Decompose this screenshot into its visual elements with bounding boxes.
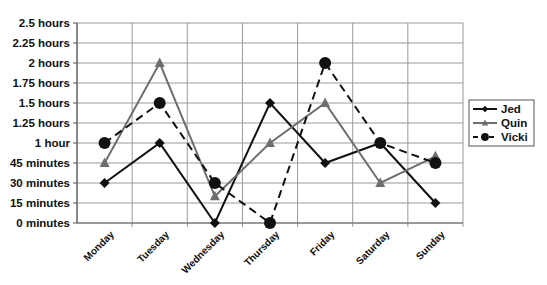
chart-canvas: 0 minutes15 minutes30 minutes45 minutes1…	[0, 0, 547, 285]
circle-marker	[154, 97, 166, 109]
legend-label: Vicki	[501, 131, 528, 143]
circle-marker	[319, 57, 331, 69]
circle-marker	[481, 133, 489, 141]
circle-marker	[264, 217, 276, 229]
x-tick-label: Sunday	[414, 228, 448, 262]
y-tick-label: 30 minutes	[10, 177, 70, 189]
x-tick-label: Monday	[81, 228, 116, 263]
y-tick-label: 2.5 hours	[19, 17, 70, 29]
y-tick-label: 0 minutes	[16, 217, 70, 229]
gridlines	[77, 23, 463, 227]
circle-marker	[374, 137, 386, 149]
y-tick-label: 2 hours	[28, 57, 70, 69]
y-tick-label: 2.25 hours	[12, 37, 70, 49]
x-tick-label: Saturday	[354, 228, 392, 266]
triangle-marker	[265, 138, 275, 148]
legend-label: Quin	[501, 117, 527, 129]
x-tick-label: Friday	[308, 228, 337, 257]
y-tick-label: 1.25 hours	[12, 117, 70, 129]
triangle-marker	[155, 58, 165, 68]
y-tick-label: 1.75 hours	[12, 77, 70, 89]
circle-marker	[99, 137, 111, 149]
circle-marker	[429, 157, 441, 169]
circle-marker	[209, 177, 221, 189]
triangle-marker	[320, 98, 330, 108]
x-axis: MondayTuesdayWednesdayThursdayFridaySatu…	[77, 223, 463, 276]
line-chart: 0 minutes15 minutes30 minutes45 minutes1…	[0, 0, 547, 285]
y-axis: 0 minutes15 minutes30 minutes45 minutes1…	[10, 17, 77, 229]
triangle-marker	[100, 158, 110, 168]
x-tick-label: Tuesday	[135, 228, 171, 264]
series-quin	[100, 58, 441, 201]
y-tick-label: 15 minutes	[10, 197, 70, 209]
legend: JedQuinVicki	[469, 100, 534, 146]
y-tick-label: 1.5 hours	[19, 97, 70, 109]
x-tick-label: Thursday	[242, 228, 282, 268]
x-tick-label: Wednesday	[179, 228, 226, 275]
y-tick-label: 1 hour	[35, 137, 71, 149]
legend-label: Jed	[501, 103, 521, 115]
y-tick-label: 45 minutes	[10, 157, 70, 169]
